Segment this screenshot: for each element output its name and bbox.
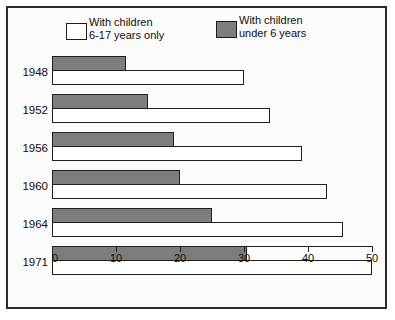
x-axis-tick-label: 10 — [110, 252, 122, 264]
legend-label-line1: With children — [239, 14, 303, 26]
bar-under-6-years — [52, 170, 180, 185]
bar-group: 1960 — [8, 170, 385, 207]
figure-frame: With children 6-17 years only With child… — [6, 6, 387, 309]
legend-entry-under-6-years: With children under 6 years — [216, 14, 306, 39]
x-axis-line — [52, 246, 372, 247]
x-axis-tick-label: 50 — [366, 252, 378, 264]
bar-6-17-years-only — [52, 222, 343, 237]
chart-screenshot: With children 6-17 years only With child… — [0, 0, 395, 320]
year-axis-label: 1948 — [8, 66, 48, 78]
bar-6-17-years-only — [52, 108, 270, 123]
x-axis: 01020304050 — [52, 246, 372, 266]
x-axis-tick-label: 0 — [52, 252, 58, 264]
year-axis-label: 1956 — [8, 142, 48, 154]
bar-under-6-years — [52, 94, 148, 109]
dark-swatch-icon — [216, 21, 237, 38]
year-axis-label: 1952 — [8, 104, 48, 116]
white-swatch-icon — [66, 23, 87, 40]
bar-6-17-years-only — [52, 184, 327, 199]
chart-legend: With children 6-17 years only With child… — [8, 8, 385, 50]
bar-6-17-years-only — [52, 146, 302, 161]
year-axis-label: 1964 — [8, 218, 48, 230]
legend-label-line2: 6-17 years only — [89, 29, 164, 42]
bar-6-17-years-only — [52, 70, 244, 85]
bar-group: 1956 — [8, 132, 385, 169]
plot-area: 194819521956196019641971 — [8, 50, 385, 307]
legend-entry-label: With children under 6 years — [239, 14, 306, 39]
legend-entry-6-17-years: With children 6-17 years only — [66, 16, 164, 41]
legend-label-line1: With children — [89, 16, 153, 28]
year-axis-label: 1971 — [8, 256, 48, 268]
bar-under-6-years — [52, 132, 174, 147]
year-axis-label: 1960 — [8, 180, 48, 192]
bar-group: 1964 — [8, 208, 385, 245]
bar-group: 1952 — [8, 94, 385, 131]
x-axis-tick-label: 30 — [238, 252, 250, 264]
bar-group: 1948 — [8, 56, 385, 93]
x-axis-tick-label: 40 — [302, 252, 314, 264]
x-axis-tick-label: 20 — [174, 252, 186, 264]
bar-under-6-years — [52, 56, 126, 71]
bar-under-6-years — [52, 208, 212, 223]
legend-entry-label: With children 6-17 years only — [89, 16, 164, 41]
legend-label-line2: under 6 years — [239, 27, 306, 40]
